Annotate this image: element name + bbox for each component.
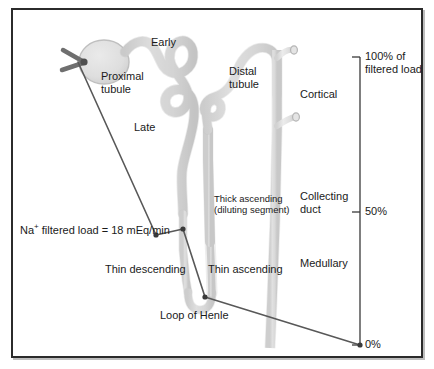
nephron-figure: Early Proximal tubule Late Distal tubule… <box>0 0 434 369</box>
filtered-load-rest: filtered load = 18 mEq/min <box>39 224 170 236</box>
scale-label-100: 100% of filtered load <box>365 50 422 75</box>
label-collecting-duct: Collecting duct <box>300 190 348 215</box>
data-point-duct-end <box>357 342 362 347</box>
label-late: Late <box>134 121 155 134</box>
arteriole-hilum-icon <box>80 58 87 65</box>
filtered-load-prefix: Na <box>20 224 34 236</box>
label-proximal-tubule: Proximal tubule <box>101 70 144 95</box>
label-thin-descending: Thin descending <box>105 263 186 276</box>
data-point-loop-bottom <box>202 294 207 299</box>
label-early: Early <box>151 36 176 49</box>
collecting-duct-branch-upper <box>277 46 297 58</box>
scale-label-0: 0% <box>365 338 381 351</box>
label-cortical: Cortical <box>300 88 337 101</box>
percent-scale-axis <box>352 57 360 345</box>
label-distal-tubule: Distal tubule <box>229 65 259 90</box>
label-thick-ascending: Thick ascending (diluting segment) <box>214 193 290 215</box>
label-loop-of-henle: Loop of Henle <box>160 309 229 322</box>
scale-label-50: 50% <box>365 205 387 218</box>
label-filtered-load: Na+ filtered load = 18 mEq/min <box>20 224 170 237</box>
label-thin-ascending: Thin ascending <box>208 263 283 276</box>
label-medullary: Medullary <box>300 257 348 270</box>
data-point-descending <box>180 226 185 231</box>
